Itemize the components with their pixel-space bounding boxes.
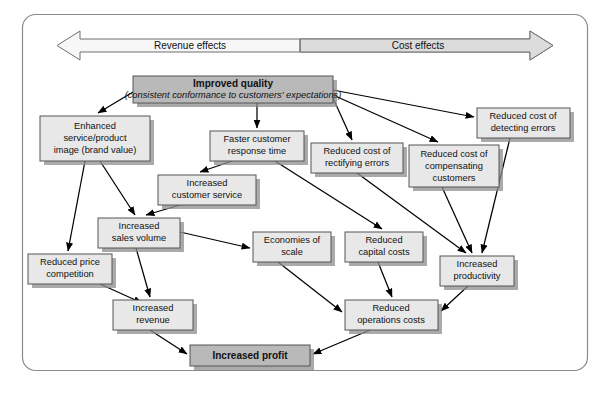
node-increased-sales-volume-line1: Increased xyxy=(119,221,160,231)
diagram-svg: Revenue effects Cost effects xyxy=(0,0,610,397)
node-improved-quality-line2: (consistent conformance to customers' ex… xyxy=(125,90,342,100)
node-increased-productivity-line2: productivity xyxy=(453,271,500,281)
node-increased-revenue-line2: revenue xyxy=(136,315,170,325)
node-enhanced-image[interactable]: Enhanced service/product image (brand va… xyxy=(40,116,154,165)
node-improved-quality-line1: Improved quality xyxy=(193,78,273,89)
node-enhanced-image-line3: image (brand value) xyxy=(54,145,137,155)
node-detecting-errors[interactable]: Reduced cost of detecting errors xyxy=(477,108,574,142)
node-rectifying-errors-line1: Reduced cost of xyxy=(323,146,391,156)
node-compensating-customers-line2: compensating xyxy=(425,161,483,171)
node-increased-customer-service-line1: Increased xyxy=(187,178,228,188)
node-faster-response-line1: Faster customer xyxy=(223,134,290,144)
node-faster-response[interactable]: Faster customer response time xyxy=(210,131,308,165)
banner-label-cost-effects: Cost effects xyxy=(392,40,445,51)
node-increased-profit-label: Increased profit xyxy=(212,350,288,361)
node-reduced-price-competition[interactable]: Reduced price competition xyxy=(28,254,116,288)
node-detecting-errors-line2: detecting errors xyxy=(491,123,556,133)
diagram-frame xyxy=(23,15,588,371)
node-increased-productivity-line1: Increased xyxy=(457,259,498,269)
node-economies-of-scale-line2: scale xyxy=(281,247,303,257)
node-increased-revenue-line1: Increased xyxy=(133,303,174,313)
node-enhanced-image-line2: service/product xyxy=(63,133,126,143)
node-reduced-operations-costs-line1: Reduced xyxy=(372,303,409,313)
node-reduced-capital-costs[interactable]: Reduced capital costs xyxy=(345,232,427,266)
node-increased-profit[interactable]: Increased profit xyxy=(190,345,314,370)
banner-label-revenue-effects: Revenue effects xyxy=(154,40,226,51)
node-detecting-errors-line1: Reduced cost of xyxy=(489,111,557,121)
node-increased-sales-volume-line2: sales volume xyxy=(112,233,166,243)
node-reduced-capital-costs-line1: Reduced xyxy=(365,235,402,245)
node-increased-customer-service[interactable]: Increased customer service xyxy=(158,175,260,209)
node-increased-customer-service-line2: customer service xyxy=(172,190,242,200)
node-increased-revenue[interactable]: Increased revenue xyxy=(113,300,197,334)
node-compensating-customers-line1: Reduced cost of xyxy=(420,149,488,159)
node-reduced-capital-costs-line2: capital costs xyxy=(358,247,410,257)
node-rectifying-errors-line2: rectifying errors xyxy=(325,158,389,168)
node-economies-of-scale[interactable]: Economies of scale xyxy=(253,232,335,266)
node-improved-quality[interactable]: Improved quality (consistent conformance… xyxy=(125,76,342,107)
node-compensating-customers[interactable]: Reduced cost of compensating customers xyxy=(409,145,503,191)
node-compensating-customers-line3: customers xyxy=(433,173,476,183)
node-faster-response-line2: response time xyxy=(228,146,286,156)
node-reduced-operations-costs[interactable]: Reduced operations costs xyxy=(345,300,442,334)
node-reduced-price-competition-line2: competition xyxy=(46,269,94,279)
node-reduced-price-competition-line1: Reduced price xyxy=(40,257,100,267)
node-enhanced-image-line1: Enhanced xyxy=(74,121,116,131)
diagram-canvas: Revenue effects Cost effects xyxy=(0,0,610,397)
node-increased-sales-volume[interactable]: Increased sales volume xyxy=(98,218,184,252)
node-rectifying-errors[interactable]: Reduced cost of rectifying errors xyxy=(311,143,407,177)
node-reduced-operations-costs-line2: operations costs xyxy=(357,315,425,325)
node-increased-productivity[interactable]: Increased productivity xyxy=(440,256,518,290)
node-economies-of-scale-line1: Economies of xyxy=(264,235,321,245)
